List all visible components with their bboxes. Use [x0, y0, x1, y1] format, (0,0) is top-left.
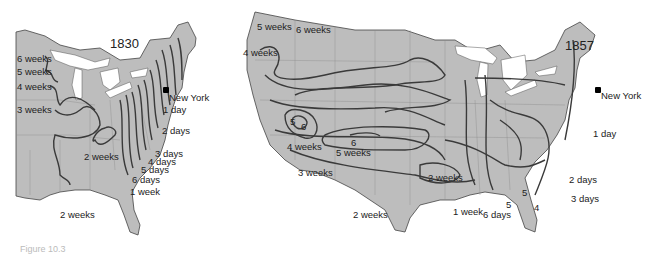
isochrone-label: 1 day [163, 105, 186, 115]
isochrone-label: 6 days [132, 175, 160, 185]
isochrone-label: 5 weeks [17, 67, 52, 77]
isochrone-label: 4 weeks [287, 142, 322, 152]
isochrone-label: 6 weeks [296, 25, 331, 35]
isochrone-label: 3 weeks [17, 105, 52, 115]
isochrone-label: 5 [290, 117, 295, 127]
isochrone-label: 2 days [569, 175, 597, 185]
isochrone-label: 4 weeks [17, 82, 52, 92]
isochrone-label: 2 weeks [60, 210, 95, 220]
map-1830-year: 1830 [110, 36, 139, 51]
isochrone-label: 4 weeks [243, 48, 278, 58]
isochrone-label: 5 weeks [257, 22, 292, 32]
isochrone-label: 5 [506, 200, 511, 210]
isochrone-label: 1 week [453, 207, 483, 217]
isochrone-label: 3 days [571, 194, 599, 204]
map-1857-graphic [235, 0, 651, 245]
isochrone-label: 5 [522, 188, 527, 198]
isochrone-label: 2 days [162, 126, 190, 136]
isochrone-label: 5 weeks [336, 148, 371, 158]
isochrone-label: 3 weeks [298, 168, 333, 178]
isochrone-label: 4 [534, 203, 539, 213]
origin-label: New York [169, 93, 209, 103]
isochrone-label: 6 weeks [17, 54, 52, 64]
isochrone-label: 6 days [483, 210, 511, 220]
map-1857: 1857 New York 5 weeks 6 weeks 4 weeks 5 … [235, 0, 651, 245]
figure-caption: Figure 10.3 [20, 244, 66, 254]
isochrone-label: 2 weeks [428, 173, 463, 183]
isochrone-label: 6 [301, 122, 306, 132]
isochrone-label: 1 day [593, 129, 616, 139]
isochrone-label: 2 weeks [353, 210, 388, 220]
isochrone-label: 1 week [130, 187, 160, 197]
map-1830: 1830 New York 6 weeks 5 weeks 4 weeks 3 … [0, 0, 235, 245]
isochrone-label: 2 weeks [84, 152, 119, 162]
origin-label: New York [601, 91, 641, 101]
map-1857-year: 1857 [565, 38, 594, 53]
